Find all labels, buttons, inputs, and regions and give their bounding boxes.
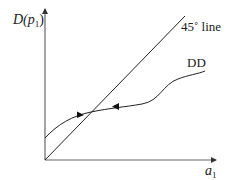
forty-five-degree-line: [45, 16, 185, 160]
x-axis-label: a1: [205, 163, 217, 180]
forty-five-line-label: 45˚ line: [181, 19, 221, 34]
arrow-left-icon: [112, 103, 119, 110]
fixed-point-diagram: D(p1) 45˚ line DD a1: [0, 0, 232, 180]
dd-curve: [45, 71, 205, 138]
arrow-right-icon: [77, 112, 84, 119]
y-axis-label: D(p1): [12, 12, 44, 29]
dd-label: DD: [187, 55, 206, 70]
